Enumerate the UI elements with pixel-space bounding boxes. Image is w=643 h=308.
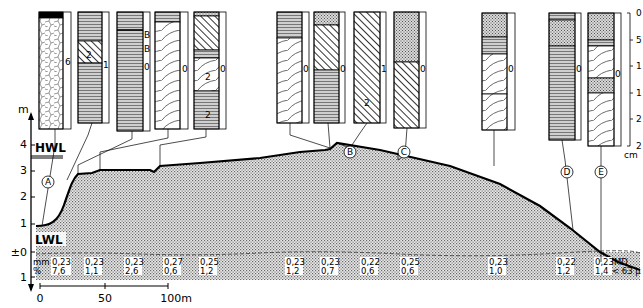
grain-col-1: 0,237,6 [51, 257, 71, 276]
grain-col-6: 0,231,2 [285, 257, 305, 276]
svg-text:A: A [45, 177, 52, 187]
y-tick-3: 3 [20, 164, 27, 177]
svg-text:1,1: 1,1 [85, 266, 99, 276]
y-axis: m 4 3 2 1 ±0 1 [11, 103, 35, 292]
grain-col-12: 0,231,4 [594, 257, 614, 276]
svg-text:0: 0 [508, 64, 514, 74]
svg-text:B: B [144, 44, 150, 54]
svg-text:0: 0 [340, 64, 346, 74]
svg-text:B: B [347, 147, 353, 157]
grain-col-10: 0,231,0 [488, 257, 508, 276]
svg-text:E: E [598, 167, 604, 177]
svg-text:1: 1 [636, 61, 642, 71]
svg-text:B: B [144, 30, 150, 40]
grain-col-5: 0,251,2 [199, 257, 219, 276]
svg-text:1,0: 1,0 [489, 266, 503, 276]
grain-col-2: 0,231,1 [84, 257, 104, 276]
y-tick-2: 2 [20, 190, 27, 203]
svg-text:0,7: 0,7 [321, 266, 335, 276]
lwl-label: LWL [35, 233, 63, 247]
pct-header: % [33, 266, 41, 276]
svg-text:0: 0 [303, 64, 309, 74]
sample-marker-d: D [561, 166, 573, 178]
svg-text:C: C [401, 147, 407, 157]
svg-text:7,6: 7,6 [52, 266, 66, 276]
svg-text:0,6: 0,6 [401, 266, 415, 276]
svg-text:1: 1 [636, 88, 642, 98]
svg-text:1,2: 1,2 [557, 266, 571, 276]
svg-text:0,6: 0,6 [164, 266, 178, 276]
sediment-cores [39, 12, 621, 146]
svg-text:1: 1 [381, 64, 387, 74]
grain-col-7: 0,230,7 [320, 257, 340, 276]
beach-profile-diagram: m 4 3 2 1 ±0 1 HWL LWL 0 50 100m mm % 0,… [0, 0, 643, 308]
svg-text:5: 5 [636, 35, 642, 45]
core-11 [549, 13, 581, 140]
sample-marker-e: E [595, 166, 607, 178]
svg-text:6: 6 [65, 57, 71, 67]
core-labels: 6 1 B B 0 0 0 0 0 1 0 0 0 0 2 2 2 2 [65, 30, 621, 120]
svg-text:0,6: 0,6 [361, 266, 375, 276]
svg-text:0: 0 [182, 64, 188, 74]
svg-text:1,2: 1,2 [286, 266, 300, 276]
svg-text:2,6: 2,6 [125, 266, 139, 276]
svg-text:1,4: 1,4 [595, 266, 609, 276]
svg-text:1: 1 [103, 60, 109, 70]
y-axis-unit: m [18, 103, 29, 116]
core-depth-scale: 0 5 1 1 2 2 cm [624, 8, 642, 160]
grain-col-11: 0,221,2 [556, 257, 576, 276]
x-scale: 0 50 100m [37, 283, 192, 305]
grain-col-3: 0,232,6 [124, 257, 144, 276]
x-tick-100: 100m [160, 292, 192, 305]
svg-text:cm: cm [624, 150, 638, 160]
svg-text:2: 2 [86, 50, 92, 60]
svg-text:0: 0 [636, 8, 642, 18]
grain-col-4: 0,270,6 [163, 257, 183, 276]
grain-col-8: 0,220,6 [360, 257, 380, 276]
svg-text:1,2: 1,2 [200, 266, 214, 276]
core-1 [39, 12, 71, 129]
svg-text:D: D [564, 167, 571, 177]
svg-text:0: 0 [420, 64, 426, 74]
svg-text:0: 0 [615, 69, 621, 79]
fines-label: < 63 µ [612, 266, 641, 276]
hwl-label: HWL [35, 141, 66, 155]
svg-text:0: 0 [576, 64, 582, 74]
core-12 [588, 13, 621, 146]
x-tick-0: 0 [37, 292, 44, 305]
sample-marker-a: A [42, 176, 54, 188]
grain-col-9: 0,250,6 [400, 257, 420, 276]
sample-marker-b: B [344, 146, 356, 158]
svg-text:2: 2 [205, 72, 211, 82]
y-tick-0: ±0 [11, 246, 27, 259]
y-tick-minus1: 1 [20, 271, 27, 284]
svg-text:2: 2 [205, 110, 211, 120]
y-tick-4: 4 [20, 138, 27, 151]
svg-text:0: 0 [144, 62, 150, 72]
svg-text:2: 2 [364, 98, 370, 108]
svg-text:2: 2 [636, 114, 642, 124]
sample-marker-c: C [398, 146, 410, 158]
y-tick-1: 1 [20, 217, 27, 230]
svg-text:0: 0 [220, 64, 226, 74]
x-tick-50: 50 [98, 292, 112, 305]
